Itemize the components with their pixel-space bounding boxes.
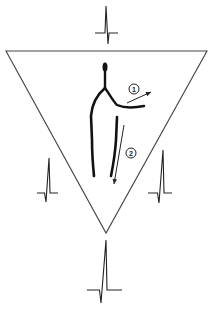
ecg-left	[37, 158, 58, 202]
vectors: 12	[113, 84, 151, 184]
einthoven-triangle	[6, 51, 207, 233]
vector-figure	[91, 63, 144, 177]
ecg-right	[148, 150, 172, 203]
einthoven-diagram: 12	[0, 0, 213, 312]
ecg-top	[95, 6, 118, 44]
vector-1: 1	[127, 84, 151, 103]
figure-left-branch	[91, 88, 105, 176]
vector-2-label: 2	[129, 150, 133, 157]
arrowhead-icon	[113, 179, 118, 184]
ecg-bottom	[87, 240, 122, 303]
diagram-canvas: 12	[0, 0, 213, 312]
figure-right-leg	[111, 117, 117, 176]
vector-1-label: 1	[132, 86, 136, 93]
